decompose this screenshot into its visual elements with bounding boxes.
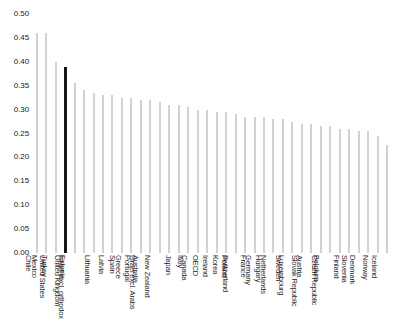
x-axis-tick-label: Ireland [201, 255, 209, 277]
bar [197, 110, 199, 253]
bar [83, 90, 85, 253]
y-axis-tick-label: 0.10 [14, 201, 29, 209]
bar-slot [117, 14, 126, 253]
x-axis-tick-label: Mexico [30, 255, 38, 278]
bar [111, 95, 113, 253]
y-axis-tick-label: 0.35 [14, 82, 29, 90]
x-axis-tick-label: Greece [115, 255, 123, 279]
x-axis-tick-label: Lithuania [84, 255, 92, 284]
bar [254, 117, 256, 253]
bar-slot [193, 14, 202, 253]
y-axis-tick-label: 0.30 [14, 106, 29, 114]
bar-slot [297, 14, 306, 253]
bar-slot [363, 14, 372, 253]
bar [159, 102, 161, 253]
x-axis-tick-label: Denmark [349, 255, 357, 284]
bar [272, 119, 274, 253]
bar-slot [146, 14, 155, 253]
bar-slot [250, 14, 259, 253]
x-axis-tick-label: Slovenia [340, 255, 348, 283]
bar [130, 98, 132, 253]
bar [206, 110, 208, 253]
x-axis-tick-label: Czech Republic [310, 255, 318, 305]
x-axis-tick-label: Canada [181, 255, 189, 280]
bar [121, 98, 123, 253]
y-axis-tick-label: 0.25 [14, 130, 29, 138]
x-axis-tick-label: United States [39, 255, 47, 298]
x-axis-tick-label: Israel excl. orthodox [57, 255, 65, 319]
x-axis-tick-label: Switzerland [222, 255, 230, 292]
bar-slot [221, 14, 230, 253]
bar-slot [41, 14, 50, 253]
bar-slot [32, 14, 41, 253]
x-axis-tick-label: Iceland [371, 255, 379, 278]
bar-slot [89, 14, 98, 253]
x-label-slot: Israel excl. Arabs [155, 255, 164, 334]
plot-area [32, 14, 392, 253]
bar [244, 117, 246, 253]
bar [263, 117, 265, 253]
x-axis-tick-label: Korea [212, 255, 220, 274]
x-axis-tick-label: Japan [164, 255, 172, 275]
bar-slot [231, 14, 240, 253]
bar-slot [269, 14, 278, 253]
x-axis-tick-label: OECD [192, 255, 200, 276]
bar-slot [382, 14, 391, 253]
bar [310, 124, 312, 253]
bar [377, 136, 379, 253]
x-axis-tick-label: Germany [245, 255, 253, 285]
bar [168, 105, 170, 253]
x-label-slot: Iceland [382, 255, 391, 334]
bar-slot [326, 14, 335, 253]
bar [93, 93, 95, 253]
bar-slot [259, 14, 268, 253]
y-axis-tick-label: 0.50 [14, 10, 29, 18]
bar-chart: 0.500.450.400.350.300.250.200.150.100.05… [0, 0, 399, 334]
bar-slot [174, 14, 183, 253]
x-axis-tick-label: Netherlands [259, 255, 267, 294]
bar [187, 107, 189, 253]
bar-slot [316, 14, 325, 253]
bar [45, 33, 47, 253]
bar-slot [51, 14, 60, 253]
bar [329, 126, 331, 253]
x-axis-tick-label: Norway [361, 255, 369, 280]
y-axis: 0.500.450.400.350.300.250.200.150.100.05… [0, 14, 32, 253]
bar [367, 131, 369, 253]
bar-slot [344, 14, 353, 253]
x-axis-tick-label: New Zealand [144, 255, 152, 298]
bar [291, 122, 293, 253]
bar-slot [307, 14, 316, 253]
bar [235, 114, 237, 253]
bar [102, 95, 104, 253]
bar [225, 112, 227, 253]
bar [149, 100, 151, 253]
bar-series [32, 14, 392, 253]
y-axis-tick-label: 0.45 [14, 34, 29, 42]
x-axis-tick-label: Latvia [98, 255, 106, 274]
bar-slot [98, 14, 107, 253]
bar-slot [127, 14, 136, 253]
x-label-slot: Estonia [70, 255, 79, 334]
y-axis-tick-label: 0.40 [14, 58, 29, 66]
bar-slot [373, 14, 382, 253]
bar [36, 33, 38, 253]
bar-slot [79, 14, 88, 253]
bar-slot [155, 14, 164, 253]
x-axis-tick-label: Slovak Republic [291, 255, 299, 307]
bar-slot [335, 14, 344, 253]
bar-slot [288, 14, 297, 253]
bar [178, 105, 180, 253]
bar-slot [354, 14, 363, 253]
bar [358, 131, 360, 253]
bar [74, 83, 76, 253]
bar [320, 126, 322, 253]
bar-slot [278, 14, 287, 253]
bar-slot [60, 14, 69, 253]
bar-slot [136, 14, 145, 253]
bar [216, 112, 218, 253]
bar-highlighted [64, 67, 67, 253]
bar-slot [202, 14, 211, 253]
bar-slot [70, 14, 79, 253]
bar [301, 124, 303, 253]
